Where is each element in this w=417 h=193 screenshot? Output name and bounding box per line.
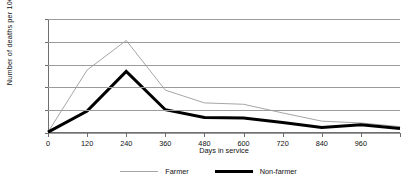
series-line-non-farmer xyxy=(48,71,400,132)
x-tick-mark xyxy=(126,133,127,137)
y-axis-title: Number of deaths per 1000 men xyxy=(5,0,14,91)
gridline-y xyxy=(48,133,400,134)
y-tick-mark xyxy=(45,42,48,43)
x-axis-title: Days in service xyxy=(48,146,400,155)
chart-legend: Farmer Non-farmer xyxy=(0,167,417,176)
x-tick-mark xyxy=(244,133,245,137)
gridline-y xyxy=(48,42,400,43)
gridline-y xyxy=(48,19,400,20)
x-tick-mark xyxy=(283,133,284,137)
series-lines xyxy=(48,19,400,133)
x-tick-mark xyxy=(204,133,205,137)
legend-item-non-farmer[interactable]: Non-farmer xyxy=(215,167,297,176)
x-tick-mark xyxy=(322,133,323,137)
x-tick-mark xyxy=(87,133,88,137)
y-tick-mark xyxy=(45,87,48,88)
chart-figure: Number of deaths per 1000 men 0510152025… xyxy=(0,0,417,193)
y-tick-mark xyxy=(45,110,48,111)
legend-label-non-farmer: Non-farmer xyxy=(260,167,297,176)
legend-swatch-farmer-icon xyxy=(120,171,158,172)
legend-item-farmer[interactable]: Farmer xyxy=(120,167,189,176)
y-tick-mark xyxy=(45,19,48,20)
x-tick-mark xyxy=(400,133,401,137)
x-tick-mark xyxy=(48,133,49,137)
legend-label-farmer: Farmer xyxy=(165,167,189,176)
plot-area: 05101520250120240360480600720840960 xyxy=(48,19,400,133)
gridline-y xyxy=(48,87,400,88)
x-tick-mark xyxy=(165,133,166,137)
x-tick-mark xyxy=(361,133,362,137)
gridline-y xyxy=(48,65,400,66)
gridline-y xyxy=(48,110,400,111)
legend-swatch-non-farmer-icon xyxy=(215,170,253,173)
y-tick-mark xyxy=(45,65,48,66)
